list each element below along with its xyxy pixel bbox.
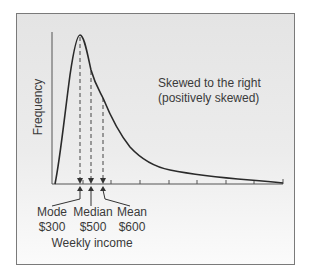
chart-plot [0, 0, 309, 280]
marker-arrowheads [77, 178, 106, 184]
median-label: Median [73, 205, 112, 219]
mode-value: $300 [39, 220, 66, 234]
label-leaders [52, 190, 130, 206]
marker-lines [80, 37, 103, 178]
mean-label: Mean [117, 205, 147, 219]
mean-value: $600 [119, 220, 146, 234]
median-value: $500 [80, 220, 107, 234]
y-axis-label: Frequency [31, 79, 45, 136]
mode-label: Mode [37, 205, 67, 219]
x-axis-label: Weekly income [51, 236, 132, 250]
annotation-line2: (positively skewed) [158, 91, 259, 105]
label-arrowheads [77, 186, 106, 191]
distribution-curve [55, 35, 283, 184]
annotation-line1: Skewed to the right [158, 76, 261, 90]
